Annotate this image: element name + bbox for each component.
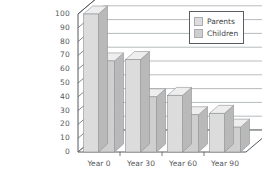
legend-item-children: Children [194, 28, 238, 39]
parents-swatch [194, 17, 203, 26]
legend-item-parents: Parents [194, 16, 238, 27]
bar-chart: 0102030405060708090100 Year 0Year 30Year… [0, 0, 262, 177]
bar-parents-year-90 [210, 105, 234, 152]
y-tick-label-50: 50 [46, 79, 70, 87]
bar-parents-year-30 [126, 52, 150, 152]
x-tick-label-year-90: Year 90 [211, 160, 239, 168]
y-tick-label-100: 100 [46, 10, 70, 18]
y-tick-label-0: 0 [46, 148, 70, 156]
children-swatch [194, 29, 203, 38]
y-tick-label-70: 70 [46, 52, 70, 60]
y-tick-label-20: 20 [46, 121, 70, 129]
bar-parents-year-60 [168, 87, 192, 152]
bar-parents-year-0 [84, 6, 108, 152]
x-tick-label-year-60: Year 60 [169, 160, 197, 168]
y-tick-label-80: 80 [46, 38, 70, 46]
y-tick-label-60: 60 [46, 65, 70, 73]
y-tick-label-40: 40 [46, 93, 70, 101]
y-tick-label-10: 10 [46, 134, 70, 142]
legend-label-parents: Parents [207, 18, 235, 26]
x-tick-label-year-0: Year 0 [87, 160, 110, 168]
legend-label-children: Children [207, 30, 238, 38]
y-tick-label-90: 90 [46, 24, 70, 32]
x-tick-label-year-30: Year 30 [127, 160, 155, 168]
y-tick-label-30: 30 [46, 107, 70, 115]
chart-legend: Parents Children [189, 11, 244, 44]
